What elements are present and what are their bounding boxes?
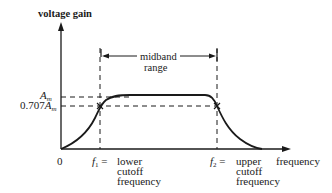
gain-curve xyxy=(61,95,262,149)
am707-label: 0.707Am xyxy=(20,100,57,115)
f1-desc-line3: frequency xyxy=(117,176,161,187)
y-axis-arrow-icon xyxy=(58,22,64,31)
y-axis-label: voltage gain xyxy=(38,8,92,19)
midband-label: midband xyxy=(140,51,177,62)
x-axis-arrow-icon xyxy=(282,146,291,152)
f1-label: f1 = xyxy=(92,156,108,171)
f2-label: f2 = xyxy=(210,156,226,171)
frequency-response-diagram: voltage gain midband range Am 0.707Am 0 … xyxy=(0,0,332,193)
origin-label: 0 xyxy=(57,156,63,167)
midband-left-arrow-icon xyxy=(102,54,109,59)
x-axis-label: frequency xyxy=(276,156,320,167)
range-label: range xyxy=(144,62,167,73)
midband-right-arrow-icon xyxy=(209,54,216,59)
f2-desc-line3: frequency xyxy=(236,176,280,187)
